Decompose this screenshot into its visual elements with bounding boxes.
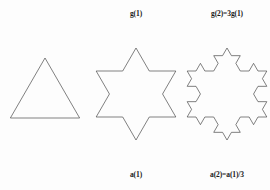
label-g1: g(1) <box>130 9 142 18</box>
label-a2: a(2)=a(1)/3 <box>210 170 244 179</box>
label-a1: a(1) <box>130 170 142 179</box>
koch-snowflake-figure: g(1) g(2)=3g(1) a(1) a(2)=a(1)/3 <box>0 0 270 190</box>
koch-outline <box>187 48 267 140</box>
shape-star-of-david <box>96 48 176 140</box>
label-g2: g(2)=3g(1) <box>211 9 243 18</box>
figure-canvas <box>0 0 270 190</box>
shape-koch-snowflake <box>187 48 267 140</box>
star-outline <box>96 48 176 140</box>
shape-triangle <box>10 58 79 118</box>
triangle-outline <box>10 58 79 118</box>
